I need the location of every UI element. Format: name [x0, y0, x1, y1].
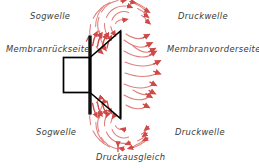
speaker-cone — [90, 31, 121, 119]
speaker-magnet-body — [64, 58, 91, 93]
label-sogwelle-top: Sogwelle — [30, 11, 70, 21]
label-sogwelle-bottom: Sogwelle — [36, 127, 76, 137]
label-membranvorderseite: Membranvorderseite — [167, 44, 259, 54]
front-pressure-arrowheads — [143, 35, 158, 106]
loudspeaker-wave-svg — [0, 0, 259, 168]
label-druckwelle-top: Druckwelle — [178, 11, 228, 21]
rear-label-leader — [86, 37, 88, 41]
label-membranrueckseite: Membranrückseite — [6, 44, 90, 54]
front-pressure-wave-arrows — [124, 34, 158, 109]
label-druckwelle-bottom: Druckwelle — [175, 127, 225, 137]
diagram-canvas: Sogwelle Druckwelle Membranrückseite Mem… — [0, 0, 259, 168]
label-druckausgleich: Druckausgleich — [96, 152, 165, 162]
